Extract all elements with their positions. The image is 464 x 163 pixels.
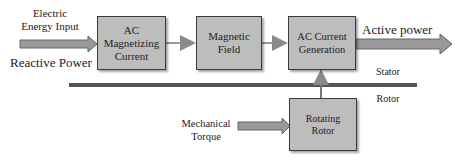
rotor-label: Rotor [368,93,408,104]
electric-input-arrow [20,36,97,52]
electric-energy-input-label: Electric Energy Input [12,7,88,33]
block-ac-magnetizing-current: AC Magnetizing Current [97,16,166,70]
stator-rotor-divider [69,83,417,87]
reactive-power-label: Reactive Power [10,55,100,70]
active-power-arrow [356,34,452,54]
block-rotating-rotor: Rotating Rotor [289,98,357,151]
stator-label: Stator [368,66,408,77]
active-power-label: Active power [362,22,452,37]
mechanical-torque-arrow [238,118,290,134]
block-ac-current-generation: AC Current Generation [288,16,356,70]
mechanical-torque-label: Mechanical Torque [170,117,242,143]
block-magnetic-field: Magnetic Field [196,16,262,70]
